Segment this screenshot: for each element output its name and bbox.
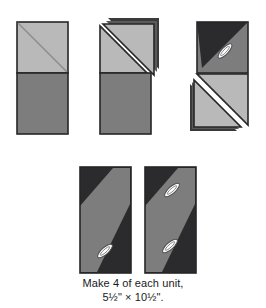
step-1-bottom-square-medium (17, 73, 68, 134)
caption-line-1: Make 4 of each unit, (0, 277, 266, 291)
diagram-canvas (0, 0, 266, 308)
step-3-pinned-unit (190, 22, 248, 131)
caption: Make 4 of each unit, 5½" × 10½". (0, 277, 266, 304)
quilting-diagram: Make 4 of each unit, 5½" × 10½". (0, 0, 266, 308)
step-5-finished-unit-right (145, 167, 196, 273)
step-4-finished-unit-left (80, 167, 131, 273)
step-2-bottom-square-medium (100, 73, 151, 134)
step-2-triangle-flipped-open (100, 18, 159, 134)
step-1-two-squares-stacked (17, 22, 68, 134)
caption-line-2: 5½" × 10½". (0, 291, 266, 305)
